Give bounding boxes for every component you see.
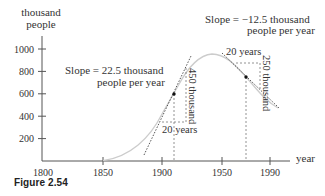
population-chart: 200 400 600 800 1000 1800 1850 1900 1950… — [0, 0, 325, 196]
rise-2-label: 250 thousand — [261, 55, 272, 112]
y-tick-label: 600 — [19, 88, 34, 99]
y-tick-label: 200 — [19, 133, 34, 144]
figure-caption: Figure 2.54 — [14, 177, 68, 188]
y-tick-label: 400 — [19, 111, 34, 122]
tangent-point-2 — [244, 75, 247, 78]
y-axis-label-line2: people — [26, 18, 55, 30]
y-axis-label-line1: thousand — [21, 6, 61, 18]
x-tick-label: 1990 — [260, 167, 280, 178]
run-2-label: 20 years — [226, 46, 261, 57]
x-tick-label: 1900 — [152, 167, 172, 178]
slope-2-label-line2: people per year — [247, 24, 315, 36]
rise-1-label: 450 thousand — [187, 68, 198, 125]
slope-1-label-line2: people per year — [97, 76, 165, 88]
y-tick-label: 1000 — [14, 44, 34, 55]
slope-1-label-line1: Slope = 22.5 thousand — [65, 64, 164, 76]
x-tick-label: 1850 — [93, 167, 113, 178]
run-1-label: 20 years — [162, 124, 197, 135]
tangent-point-1 — [172, 92, 175, 95]
y-tick-label: 800 — [19, 66, 34, 77]
x-tick-label: 1950 — [212, 167, 232, 178]
x-axis-label: year — [296, 152, 315, 164]
